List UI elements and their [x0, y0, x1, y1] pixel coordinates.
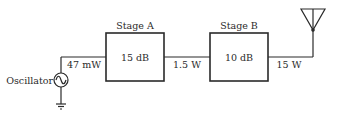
stage-a-gain: 15 dB — [121, 52, 149, 63]
stage-b-title: Stage B — [220, 20, 258, 31]
signal-level-1-5w: 1.5 W — [173, 59, 201, 70]
signal-level-15w: 15 W — [277, 59, 302, 70]
ac-source-icon — [54, 73, 68, 87]
stage-a-title: Stage A — [116, 20, 154, 31]
amplifier-chain-diagram: Stage A 15 dB Stage B 10 dB 47 mW 1.5 W … — [0, 0, 337, 119]
antenna-icon — [301, 9, 325, 31]
oscillator-label: Oscillator — [6, 75, 53, 86]
signal-level-47mw: 47 mW — [67, 59, 101, 70]
ground-icon — [56, 87, 66, 109]
stage-b-gain: 10 dB — [225, 52, 253, 63]
